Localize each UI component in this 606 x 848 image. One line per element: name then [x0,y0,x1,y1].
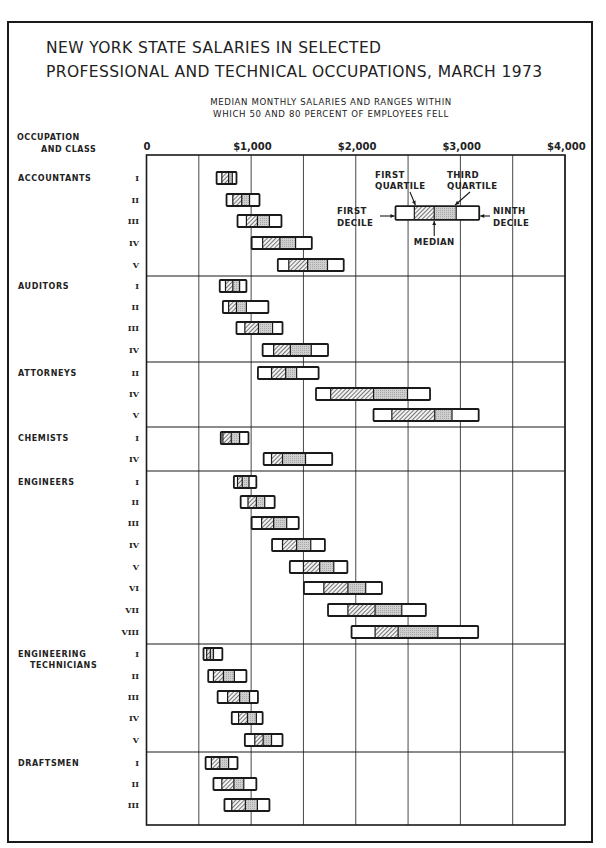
median-to-q3-segment [220,757,229,769]
class-label: VII [124,605,139,615]
median-to-q3-segment [434,206,456,220]
q1-to-median-segment [228,691,240,703]
legend-label: THIRD [447,170,479,180]
q1-to-median-segment [392,409,435,421]
salary-range-bar [328,604,426,616]
salary-range-bar [252,517,299,529]
class-label: IV [129,238,140,248]
median-to-q3-segment [263,734,271,746]
median-to-q3-segment [290,344,311,356]
class-label: I [135,758,139,768]
legend-label: QUARTILE [447,181,498,191]
median-to-q3-segment [308,259,328,271]
occupation-label: CHEMISTS [18,434,69,443]
class-label: VIII [121,627,140,637]
median-to-q3-segment [236,301,246,313]
occupation-label: ENGINEERS [18,478,75,487]
legend-label: NINTH [493,206,526,216]
x-tick-label: 0 [144,141,151,152]
q1-to-median-segment [245,322,259,334]
q1-to-median-segment [229,301,237,313]
median-to-q3-segment [398,626,438,638]
q1-to-median-segment [263,237,280,249]
grid-lines [147,155,566,825]
salary-range-bar [218,691,258,703]
q1-to-median-segment [375,626,398,638]
median-to-q3-segment [242,476,249,488]
salary-range-bar [224,799,269,811]
legend-label: DECILE [337,218,373,228]
median-to-q3-segment [320,561,334,573]
median-to-q3-segment [274,517,287,529]
q1-to-median-segment [274,344,291,356]
q1-to-median-segment [239,712,248,724]
x-tick-label: $1,000 [233,141,272,152]
q1-to-median-segment [246,215,257,227]
salary-range-bar [374,409,479,421]
salary-range-bar [204,648,223,660]
class-label: III [128,323,139,333]
class-label: IV [129,713,140,723]
q1-to-median-segment [238,476,243,488]
salary-range-bar [278,259,344,271]
class-label: III [128,800,139,810]
class-label: IV [129,454,140,464]
salary-range-bar [238,215,282,227]
q1-to-median-segment [248,496,256,508]
q1-to-median-segment [283,539,297,551]
class-label: I [135,649,139,659]
arrow-head-icon [432,221,436,225]
occupation-label: ATTORNEYS [18,369,77,378]
median-to-q3-segment [247,712,256,724]
class-label: V [132,260,140,270]
salary-range-bar [396,206,480,220]
salary-range-bar [217,172,237,184]
class-label: II [132,779,140,789]
x-axis-ticks: 0$1,000$2,000$3,000$4,000 [144,141,586,152]
legend-label: FIRST [337,206,367,216]
x-tick-label: $3,000 [442,141,481,152]
median-to-q3-segment [231,432,239,444]
salary-range-bar [316,388,430,400]
salary-range-bar [252,237,312,249]
median-to-q3-segment [286,367,297,379]
median-to-q3-segment [256,496,264,508]
class-label: IV [129,389,140,399]
class-label: I [135,433,139,443]
q1-to-median-segment [414,206,434,220]
salary-range-bar [236,322,282,334]
legend: FIRSTQUARTILETHIRDQUARTILEFIRSTDECILENIN… [337,170,529,247]
q1-to-median-segment [222,778,234,790]
salary-range-bar [208,670,246,682]
q1-to-median-segment [225,280,232,292]
class-label: I [135,477,139,487]
salary-range-bar [234,476,256,488]
class-label: II [132,302,140,312]
q1-to-median-segment [331,388,374,400]
q1-to-median-segment [222,172,229,184]
x-tick-label: $4,000 [547,141,586,152]
occupation-label: DRAFTSMEN [18,759,79,768]
q1-to-median-segment [213,670,223,682]
salary-range-bar [213,778,256,790]
median-to-q3-segment [375,604,402,616]
median-to-q3-segment [257,215,269,227]
salary-range-bar [241,496,275,508]
q1-to-median-segment [262,517,274,529]
q1-to-median-segment [272,453,283,465]
salary-bars [204,172,479,811]
q1-to-median-segment [324,582,348,594]
median-to-q3-segment [435,409,452,421]
q1-to-median-segment [211,757,219,769]
class-label: II [132,497,140,507]
salary-range-chart: 0$1,000$2,000$3,000$4,000 ACCOUNTANTSIII… [0,0,606,848]
legend-label: QUARTILE [375,181,426,191]
occupation-labels: ACCOUNTANTSIIIIIIIVVAUDITORSIIIIIIIVATTO… [18,173,140,810]
legend-label: DECILE [493,218,529,228]
salary-range-bar [221,432,249,444]
salary-range-bar [220,280,247,292]
median-to-q3-segment [233,280,240,292]
salary-range-bar [263,344,328,356]
salary-range-bar [258,367,319,379]
arrow-head-icon [480,214,484,218]
